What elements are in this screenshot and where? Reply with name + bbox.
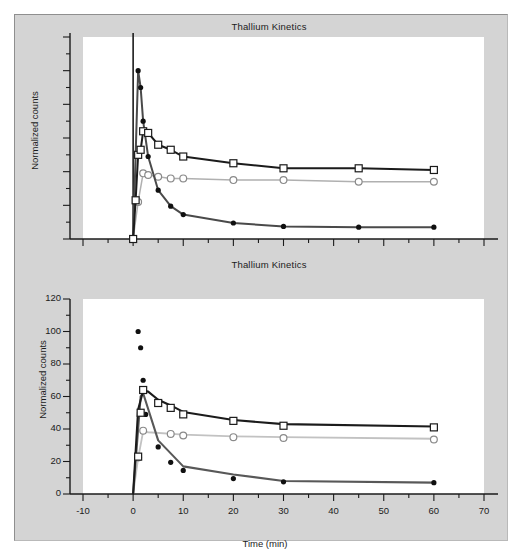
x-tick-label: 30 bbox=[264, 505, 304, 516]
bottom-open-square-series-marker-square bbox=[140, 387, 147, 394]
bottom-filled-dot-series-marker-dot bbox=[181, 468, 186, 473]
top-open-square-series-marker-square bbox=[130, 236, 137, 243]
top-open-square-series-marker-square bbox=[280, 165, 287, 172]
top-open-square-series-marker-square bbox=[132, 197, 139, 204]
top-filled-dot-series-marker-dot bbox=[356, 225, 361, 230]
top-filled-dot-series-marker-dot bbox=[141, 119, 146, 124]
top-filled-dot-series-marker-dot bbox=[138, 85, 143, 90]
top-open-circle-series-marker-circle bbox=[167, 175, 174, 182]
bottom-open-square-series-marker-square bbox=[280, 422, 287, 429]
top-filled-dot-series-marker-dot bbox=[231, 220, 236, 225]
top-open-circle-series-marker-circle bbox=[145, 172, 152, 179]
bottom-open-square-series-marker-square bbox=[155, 400, 162, 407]
y-tick-label: 40 bbox=[29, 422, 61, 433]
top-filled-dot-series-marker-dot bbox=[431, 225, 436, 230]
figure-panel: Thallium Kinetics Normalized counts Thal… bbox=[14, 14, 508, 541]
top-filled-dot-series-marker-dot bbox=[156, 188, 161, 193]
y-tick-label: 0 bbox=[29, 487, 61, 498]
top-open-circle-series-marker-circle bbox=[430, 178, 437, 185]
top-open-circle-series-marker-circle bbox=[355, 178, 362, 185]
figure-root: Thallium Kinetics Normalized counts Thal… bbox=[0, 0, 523, 558]
bottom-open-circle-series-marker-circle bbox=[430, 436, 437, 443]
top-filled-dot-series-marker-dot bbox=[136, 68, 141, 73]
bottom-open-square-series-marker-square bbox=[135, 453, 142, 460]
x-tick-label: -10 bbox=[63, 505, 103, 516]
x-tick-label: 0 bbox=[113, 505, 153, 516]
bottom-filled-dot-series-marker-dot bbox=[281, 479, 286, 484]
bottom-open-circle-series-marker-circle bbox=[180, 432, 187, 439]
top-open-square-series-marker-square bbox=[137, 146, 144, 153]
y-tick-label: 20 bbox=[29, 455, 61, 466]
top-filled-dot-series-marker-dot bbox=[281, 224, 286, 229]
bottom-open-square-series-marker-square bbox=[137, 409, 144, 416]
bottom-open-circle-series-marker-circle bbox=[230, 434, 237, 441]
top-filled-dot-series-marker-dot bbox=[146, 154, 151, 159]
x-tick-label: 20 bbox=[213, 505, 253, 516]
bottom-open-circle-series-marker-circle bbox=[280, 435, 287, 442]
top-open-square-series-marker-square bbox=[355, 165, 362, 172]
x-tick-label: 70 bbox=[464, 505, 504, 516]
bottom-filled-dot-series-marker-dot bbox=[431, 480, 436, 485]
y-tick-label: 60 bbox=[29, 390, 61, 401]
top-open-circle-series-marker-circle bbox=[180, 175, 187, 182]
bottom-filled-dot-series-marker-dot bbox=[168, 460, 173, 465]
top-filled-dot-series-marker-dot bbox=[181, 212, 186, 217]
top-open-circle-series-marker-circle bbox=[280, 177, 287, 184]
bottom-open-square-series-marker-square bbox=[230, 417, 237, 424]
top-filled-dot-series-marker-dot bbox=[168, 204, 173, 209]
bottom-filled-dot-series-marker-dot bbox=[156, 444, 161, 449]
top-open-square-series-marker-square bbox=[180, 153, 187, 160]
chart-top-canvas bbox=[15, 15, 509, 265]
bottom-open-square-series-marker-square bbox=[180, 411, 187, 418]
bottom-open-square-series-marker-square bbox=[167, 404, 174, 411]
x-tick-label: 60 bbox=[414, 505, 454, 516]
top-open-square-series-marker-square bbox=[145, 129, 152, 136]
x-tick-label: 10 bbox=[163, 505, 203, 516]
bottom-open-square-series-marker-square bbox=[430, 424, 437, 431]
top-open-square-series-marker-square bbox=[155, 141, 162, 148]
bottom-filled-dot-series-marker-dot bbox=[231, 476, 236, 481]
y-tick-label: 100 bbox=[29, 325, 61, 336]
bottom-filled-dot-series-marker-dot bbox=[138, 345, 143, 350]
top-open-circle-series-marker-circle bbox=[230, 177, 237, 184]
x-tick-label: 40 bbox=[314, 505, 354, 516]
top-open-square-series-marker-square bbox=[167, 146, 174, 153]
bottom-filled-dot-series-marker-dot bbox=[141, 378, 146, 383]
x-tick-label: 50 bbox=[364, 505, 404, 516]
y-tick-label: 120 bbox=[29, 292, 61, 303]
top-open-square-series-marker-square bbox=[230, 160, 237, 167]
y-tick-label: 80 bbox=[29, 357, 61, 368]
top-open-square-series-marker-square bbox=[430, 166, 437, 173]
bottom-open-circle-series-marker-circle bbox=[167, 430, 174, 437]
bottom-open-circle-series-marker-circle bbox=[140, 427, 147, 434]
bottom-filled-dot-series-marker-dot bbox=[136, 329, 141, 334]
